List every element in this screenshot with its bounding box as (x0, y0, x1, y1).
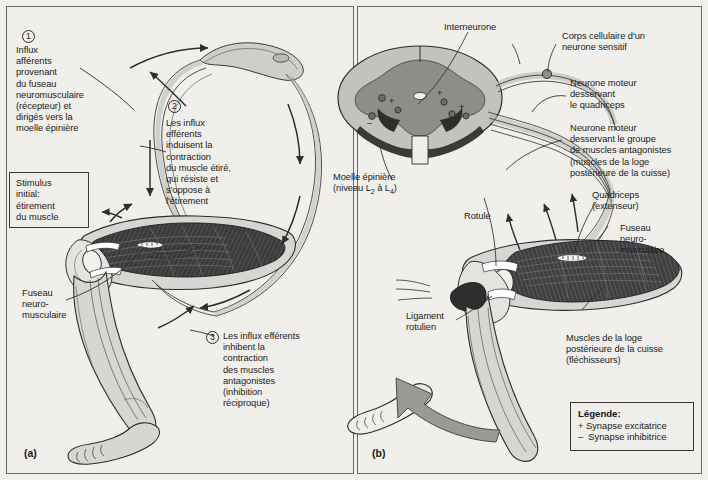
label-neurone-moteur-antagonistes: Neurone moteur desservant le groupe de m… (570, 123, 706, 179)
moelle-niveau-prefix: (niveau L (333, 183, 371, 193)
step-number-3: 3 (206, 331, 219, 344)
moelle-title: Moelle épinière (333, 172, 395, 182)
legend-inhibitory: – Synapse inhibitrice (578, 432, 685, 443)
step-number-1: 1 (22, 30, 35, 43)
label-moelle-epiniere: Moelle épinière(niveau L2 à L4) (333, 172, 453, 197)
label-fuseau-b: Fuseau neuro- musculaire (620, 223, 698, 257)
legend-title: Légende: (578, 408, 685, 419)
label-rotule: Rotule (464, 211, 491, 222)
label-quadriceps: Quadriceps (extenseur) (592, 190, 682, 212)
legend-box: Légende: + Synapse excitatrice – Synapse… (570, 402, 694, 451)
label-interneurone: Interneurone (444, 22, 496, 33)
label-corps-cellulaire: Corps cellulaire d'un neurone sensitif (562, 31, 694, 53)
moelle-niveau-mid: à L (375, 183, 390, 193)
stimulus-box: Stimulus initial: étirement du muscle (9, 172, 89, 228)
step-number-2: 2 (168, 100, 181, 113)
legend-excitatory: + Synapse excitatrice (578, 421, 685, 432)
spindle-label-a: Fuseau neuro- musculaire (22, 288, 100, 322)
label-ligament-rotulien: Ligament rotulien (406, 311, 478, 333)
panel-a-tag: (a) (24, 447, 37, 459)
moelle-niveau-suffix: ) (394, 183, 397, 193)
reflex-arc-figure: + + + – (0, 0, 708, 480)
panel-b-tag: (b) (372, 447, 385, 459)
step-1-text: Influx afférents provenant du fuseau neu… (16, 45, 120, 135)
step-3-text: Les influx efférents inhibent la contrac… (223, 331, 341, 409)
label-muscles-loge: Muscles de la loge postérieure de la cui… (566, 333, 704, 367)
label-neurone-moteur-quadriceps: Neurone moteur desservant le quadriceps (570, 78, 690, 112)
step-2-text: Les influx efférents indui­sent la contr… (166, 118, 262, 208)
